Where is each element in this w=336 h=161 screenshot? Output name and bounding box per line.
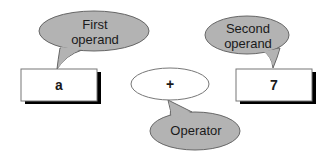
first-operand-label-line2: operand xyxy=(71,32,119,47)
second-operand-label-line2: operand xyxy=(224,36,272,51)
second-operand-label-line1: Second xyxy=(226,21,270,36)
second-operand-callout: Second operand xyxy=(205,16,289,68)
operator-label: Operator xyxy=(170,123,222,138)
operator-ellipse: + xyxy=(131,68,209,100)
second-operand-value: 7 xyxy=(270,77,278,93)
first-operand-label-line1: First xyxy=(82,17,108,32)
first-operand-callout: First operand xyxy=(39,11,149,69)
expression-diagram: First operand a Operator + Second operan… xyxy=(0,0,336,161)
operator-symbol: + xyxy=(166,76,174,92)
first-operand-value: a xyxy=(55,78,64,94)
second-operand-box: 7 xyxy=(236,69,316,104)
operator-callout: Operator xyxy=(150,100,240,150)
first-operand-box: a xyxy=(21,69,101,104)
